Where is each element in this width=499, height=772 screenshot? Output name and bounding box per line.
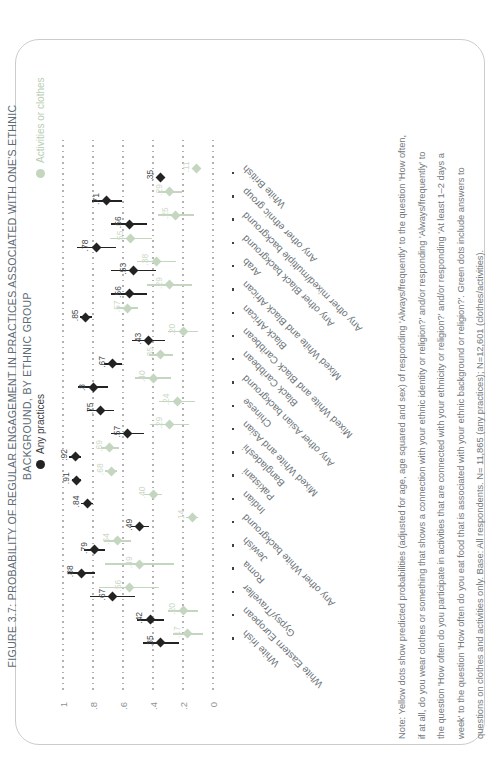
legend-label-any-practices: Any practices [35,394,46,454]
category-tick [232,614,234,616]
gridline [152,140,154,690]
value-label-green: .35 [145,347,155,359]
rotated-page: FIGURE 3.7: PROBABILITY OF REGULAR ENGAG… [0,0,499,772]
value-label-green: .25 [160,207,170,219]
value-label-green: .64 [101,533,111,545]
gridline [92,140,94,690]
y-tick-label: .6 [118,702,129,722]
value-label-black: .75 [85,402,95,414]
value-label-green: .40 [137,370,147,382]
category-tick [232,358,234,360]
category-tick [232,544,234,546]
value-label-green: .49 [124,556,134,568]
value-label-black: .49 [124,519,134,531]
y-tick-label: 1 [58,702,69,722]
category-tick [232,172,234,174]
value-label-green: .20 [167,324,177,336]
category-tick [232,242,234,244]
value-label-green: .69 [94,440,104,452]
legend-item-activities-or-clothes: Activities or clothes [35,77,46,178]
value-label-black: .84 [71,496,81,508]
category-tick [232,335,234,337]
category-tick [232,451,234,453]
value-label-green: .17 [172,626,182,638]
value-label-green: .40 [137,487,147,499]
value-label-green: .11 [181,161,191,172]
y-tick-label: .8 [88,702,99,722]
figure-3-7: FIGURE 3.7: PROBABILITY OF REGULAR ENGAG… [0,0,499,772]
value-label-black: .42 [134,612,144,624]
green-dot-icon [36,169,45,178]
y-tick-label: .2 [178,702,189,722]
value-label-black: .71 [91,193,101,205]
category-tick [232,568,234,570]
category-tick [232,265,234,267]
value-label-black: .78 [80,240,90,252]
value-label-black: .79 [79,542,89,554]
gridline [212,140,214,690]
value-label-black: .56 [113,286,123,298]
value-label-green: .57 [112,300,122,312]
legend-label-activities-or-clothes: Activities or clothes [35,77,46,163]
category-tick [232,637,234,639]
value-label-black: .85 [70,309,80,321]
value-label-black: .35 [145,635,155,647]
value-label-black: .56 [113,216,123,228]
legend-item-any-practices: Any practices [35,394,46,469]
value-label-green: .38 [140,254,150,266]
y-tick-label: .4 [148,702,159,722]
category-tick [232,591,234,593]
category-tick [232,405,234,407]
y-tick-label: 0 [208,702,219,722]
note-line: week' to the question 'How often do you … [455,167,466,739]
value-label-green: .24 [161,393,171,405]
value-label-green: .29 [154,184,164,196]
value-label-green: .29 [154,277,164,289]
value-label-black: .92 [59,449,69,461]
value-label-black: .35 [145,170,155,182]
value-label-black: .67 [97,589,107,601]
note-line: questions on clothes and activities only… [474,250,485,739]
note-line: if at all, do you wear clothes or someth… [416,152,427,739]
black-dot-icon [36,460,45,469]
value-label-black: .8 [77,384,87,391]
value-label-green: .14 [176,510,186,522]
figure-title-line2: BACKGROUND, BY ETHNIC GROUP [21,0,33,772]
category-tick [232,474,234,476]
category-tick [232,498,234,500]
value-label-green: .68 [95,463,105,475]
gridline [62,140,64,690]
value-label-green: .29 [154,417,164,429]
value-label-black: .67 [97,356,107,368]
value-label-black: .43 [133,333,143,345]
value-label-black: .88 [65,565,75,577]
figure-title-line1: FIGURE 3.7: PROBABILITY OF REGULAR ENGAG… [6,0,18,772]
category-tick [232,428,234,430]
category-tick [232,312,234,314]
category-tick [232,521,234,523]
value-label-green: .56 [113,580,123,592]
note-line: the question 'How often do you participa… [435,153,446,739]
value-label-black: .53 [118,263,128,275]
note-line: Note: Yellow dots show predicted probabi… [396,135,407,739]
category-tick [232,288,234,290]
value-label-black: .91 [61,472,71,484]
value-label-green: .20 [167,603,177,615]
category-tick [232,195,234,197]
category-tick [232,218,234,220]
category-tick [232,381,234,383]
value-label-black: .57 [112,426,122,438]
value-label-green: .55 [115,231,125,243]
